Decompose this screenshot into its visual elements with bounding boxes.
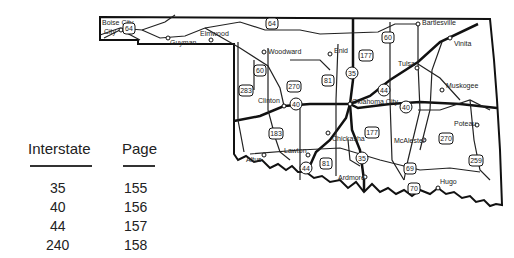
svg-text:64: 64	[268, 20, 276, 27]
svg-text:259: 259	[470, 157, 482, 164]
svg-text:283: 283	[240, 87, 252, 94]
svg-text:81: 81	[324, 77, 332, 84]
city-label: Lawton	[284, 147, 307, 154]
svg-text:35: 35	[358, 155, 366, 162]
svg-text:270: 270	[440, 135, 452, 142]
svg-text:35: 35	[348, 70, 356, 77]
city-label: Enid	[334, 47, 348, 54]
city-label: Clinton	[258, 97, 280, 104]
svg-text:183: 183	[270, 130, 282, 137]
city-label: Chickasha	[332, 135, 365, 142]
city-label: Woodward	[268, 48, 301, 55]
city-label: Elmwood	[200, 30, 229, 37]
city-label: Ardmore	[338, 174, 365, 181]
svg-text:City: City	[104, 28, 117, 36]
svg-text:64: 64	[125, 25, 133, 32]
svg-text:69: 69	[406, 165, 414, 172]
city-label: Vinita	[454, 40, 471, 47]
svg-text:270: 270	[288, 83, 300, 90]
city-label: Muskogee	[446, 82, 478, 90]
oklahoma-interstate-map: Interstate Page 35 155 40 156 44 157 240…	[0, 0, 514, 258]
svg-text:177: 177	[360, 52, 372, 59]
us-highways	[100, 15, 490, 180]
svg-text:60: 60	[384, 34, 392, 41]
city-label: Bartlesville	[422, 19, 456, 26]
svg-text:70: 70	[410, 185, 418, 192]
city-label: Altus	[246, 156, 262, 163]
city-label: Hugo	[440, 178, 457, 186]
city-label: Tulsa	[398, 60, 415, 67]
city-label: Poteau	[454, 120, 476, 127]
city-label: McAlester	[394, 137, 426, 144]
svg-text:60: 60	[256, 67, 264, 74]
city-label: Oklahoma City	[352, 98, 398, 106]
svg-text:177: 177	[366, 129, 378, 136]
svg-text:44: 44	[302, 165, 310, 172]
svg-text:81: 81	[322, 160, 330, 167]
svg-text:40: 40	[292, 101, 300, 108]
state-map: Boise City City Guyman Elmwood Woodward …	[0, 0, 514, 258]
svg-text:44: 44	[380, 87, 388, 94]
svg-text:40: 40	[402, 104, 410, 111]
city-label: Guyman	[170, 39, 197, 47]
